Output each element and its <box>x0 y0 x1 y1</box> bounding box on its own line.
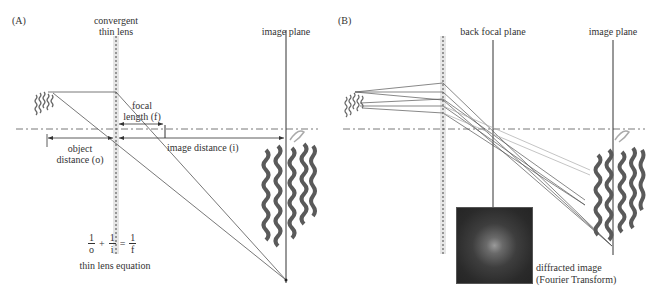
object-protein-b <box>345 93 363 117</box>
image-protein-a <box>264 144 316 246</box>
image-plane-label-a: image plane <box>256 26 316 37</box>
plus-sign: + <box>99 238 105 249</box>
thin-lens-equation-caption: thin lens equation <box>70 260 160 271</box>
panel-a-label: (A) <box>12 15 26 26</box>
equals-sign: = <box>120 238 126 249</box>
focal-length-label-line2: length (f) <box>116 111 168 122</box>
object-distance-label-line1: object <box>48 143 112 154</box>
diffraction-pattern-image <box>456 207 533 284</box>
image-plane-label-b: image plane <box>583 26 643 37</box>
lens-label-a-line2: thin lens <box>86 26 146 37</box>
fraction-1-over-i: 1 i <box>109 232 116 255</box>
lens-label-a-line1: convergent <box>86 15 146 26</box>
image-distance-label: image distance (i) <box>167 142 239 153</box>
diffracted-image-label-line2: (Fourier Transform) <box>536 274 616 285</box>
focal-length-label-line1: focal <box>120 100 164 111</box>
object-protein-a <box>35 92 53 115</box>
image-protein-b <box>596 148 644 240</box>
diffracted-image-label-line1: diffracted image <box>536 262 602 273</box>
fraction-1-over-f: 1 f <box>129 232 136 255</box>
back-focal-plane-label: back focal plane <box>453 26 533 37</box>
object-distance-label-line2: distance (o) <box>48 154 112 165</box>
thin-lens-equation: 1 o + 1 i = 1 f <box>86 232 138 255</box>
panel-b-label: (B) <box>338 15 351 26</box>
fraction-1-over-o: 1 o <box>88 232 95 255</box>
